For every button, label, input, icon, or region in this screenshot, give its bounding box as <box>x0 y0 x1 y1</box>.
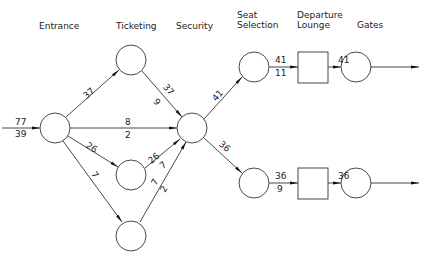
process-flow-diagram: Entrance Ticketing Security Seat Selecti… <box>0 0 427 262</box>
flow-entrance-ticketing1: 37 <box>81 86 96 101</box>
flow-lounge1-gate1: 41 <box>338 55 349 65</box>
node-ticketing-3 <box>116 221 146 251</box>
stage-label-ticketing: Ticketing <box>115 21 157 31</box>
edge-ticketing3-security <box>140 142 186 222</box>
flow-seat1-lounge1-bottom: 11 <box>275 68 286 78</box>
node-security <box>177 113 207 143</box>
stage-label-seat-line2: Selection <box>237 20 278 30</box>
node-ticketing-1 <box>116 45 146 75</box>
stage-label-lounge-line2: Lounge <box>297 20 330 30</box>
edge-security-seat1 <box>204 77 242 119</box>
stage-label-gates: Gates <box>357 20 384 30</box>
node-lounge-2 <box>298 168 328 199</box>
flow-ticketing3-security-top: 7 <box>149 177 161 187</box>
node-ticketing-2 <box>116 160 146 190</box>
input-top-value: 77 <box>15 117 26 127</box>
flow-entrance-security-bottom: 2 <box>125 130 131 140</box>
flow-lounge2-gate2: 36 <box>338 171 350 181</box>
input-bottom-value: 39 <box>15 129 27 139</box>
flow-seat1-lounge1-top: 41 <box>275 55 286 65</box>
stage-label-entrance: Entrance <box>39 21 80 31</box>
stage-label-lounge-line1: Departure <box>297 10 343 20</box>
node-seat-1 <box>239 52 269 82</box>
flow-entrance-ticketing2: 26 <box>84 140 99 155</box>
flow-seat2-lounge2-top: 36 <box>275 171 287 181</box>
flow-ticketing2-security-bottom: 7 <box>157 159 168 170</box>
node-lounge-1 <box>298 52 328 83</box>
node-seat-2 <box>239 168 269 198</box>
flow-seat2-lounge2-bottom: 9 <box>277 184 283 194</box>
stage-label-seat-line1: Seat <box>237 10 258 20</box>
flow-entrance-security-top: 8 <box>125 117 131 127</box>
flow-security-seat1: 41 <box>210 88 225 103</box>
edges <box>2 67 419 222</box>
stage-labels: Entrance Ticketing Security Seat Selecti… <box>39 10 384 31</box>
flow-ticketing3-security-bottom: 2 <box>158 184 170 194</box>
stage-label-security: Security <box>176 21 214 31</box>
edge-ticketing1-security <box>142 71 182 117</box>
flow-ticketing1-security-bottom: 9 <box>151 96 162 107</box>
node-entrance <box>40 113 70 143</box>
